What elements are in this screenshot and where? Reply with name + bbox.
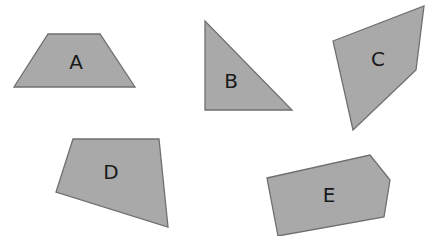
shape-d: D: [56, 139, 168, 227]
label-d: D: [103, 160, 118, 184]
shape-c: C: [333, 6, 424, 130]
label-b: B: [224, 69, 238, 93]
triangle-b: [205, 21, 292, 110]
shape-b: B: [205, 21, 292, 110]
shapes-diagram: A B C D E: [0, 0, 432, 236]
label-a: A: [69, 50, 83, 74]
shape-a: A: [14, 34, 135, 87]
label-e: E: [323, 183, 336, 207]
shape-e: E: [267, 155, 390, 236]
label-c: C: [371, 47, 385, 71]
